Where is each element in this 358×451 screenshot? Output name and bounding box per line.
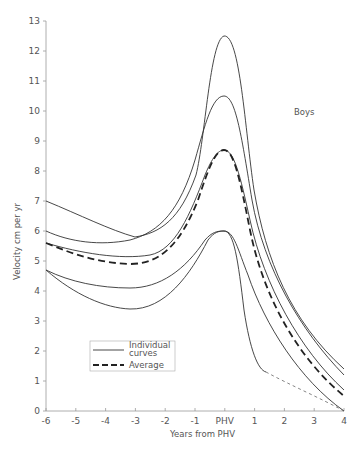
curve-5-extrapolated — [266, 372, 344, 411]
y-tick-label: 9 — [34, 136, 40, 146]
y-axis-ticks: 012345678910111213 — [29, 16, 46, 416]
y-tick-label: 10 — [29, 106, 41, 116]
x-tick-label: -3 — [131, 416, 140, 426]
x-tick-label: 2 — [282, 416, 288, 426]
legend-label-curves: curves — [129, 348, 158, 358]
y-tick-label: 2 — [34, 346, 40, 356]
y-tick-label: 6 — [34, 226, 40, 236]
y-tick-label: 7 — [34, 196, 40, 206]
x-tick-label: -2 — [161, 416, 170, 426]
legend-label-average: Average — [129, 360, 164, 370]
y-tick-label: 11 — [29, 76, 40, 86]
y-tick-label: 3 — [34, 316, 40, 326]
x-tick-label: 4 — [341, 416, 347, 426]
legend: Individual curves Average — [90, 340, 175, 371]
y-tick-label: 5 — [34, 256, 40, 266]
y-tick-label: 4 — [34, 286, 40, 296]
x-tick-label: -4 — [101, 416, 110, 426]
x-tick-label: 3 — [311, 416, 317, 426]
x-tick-label: PHV — [216, 416, 235, 426]
y-tick-label: 8 — [34, 166, 40, 176]
y-tick-label: 12 — [29, 46, 40, 56]
y-axis-title: Velocity cm per yr — [12, 202, 22, 280]
x-tick-label: -6 — [42, 416, 51, 426]
y-tick-label: 0 — [34, 406, 40, 416]
annotation-boys: Boys — [294, 107, 315, 117]
growth-velocity-chart: 012345678910111213 -6-5-4-3-2-1PHV1234 I… — [0, 0, 358, 451]
x-tick-label: -1 — [191, 416, 200, 426]
x-tick-label: -5 — [71, 416, 80, 426]
x-tick-label: 1 — [252, 416, 258, 426]
y-tick-label: 13 — [29, 16, 40, 26]
curve-2 — [46, 96, 344, 375]
x-axis-title: Years from PHV — [169, 429, 235, 439]
y-tick-label: 1 — [34, 376, 40, 386]
